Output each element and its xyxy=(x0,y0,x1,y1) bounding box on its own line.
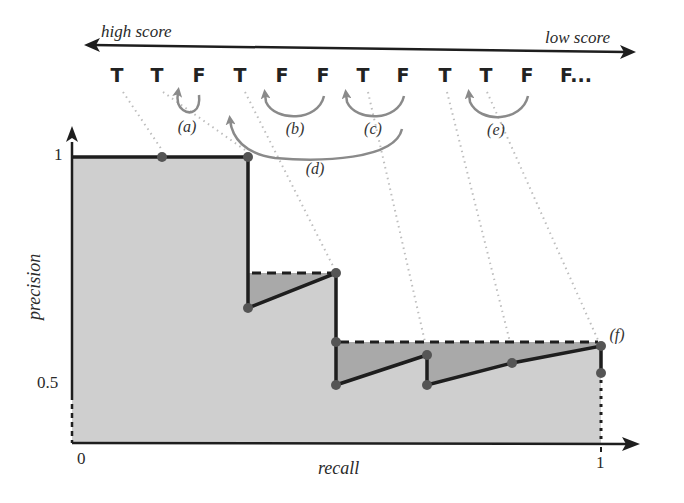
x-tick-1-label: 1 xyxy=(596,453,605,473)
sequence-item: F xyxy=(193,64,206,86)
arc-label-e: (e) xyxy=(487,121,505,139)
arc-label-a: (a) xyxy=(178,118,197,136)
high-score-label: high score xyxy=(101,22,172,42)
sequence-item: F xyxy=(276,64,289,86)
x-axis xyxy=(72,443,626,444)
arc-label-c: (c) xyxy=(364,120,382,138)
sequence-item: F... xyxy=(560,64,592,86)
sequence-item: T xyxy=(439,64,452,86)
arc-label-b: (b) xyxy=(286,120,305,138)
sequence-item: F xyxy=(521,64,534,86)
sequence-item: T xyxy=(111,64,124,86)
swap-arcs xyxy=(178,92,528,160)
y-tick-0-5: 0.5 xyxy=(37,373,58,393)
arc-c xyxy=(346,94,404,116)
sequence-item: F xyxy=(397,64,410,86)
arc-label-f: (f) xyxy=(609,326,624,344)
arc-label-d: (d) xyxy=(306,160,325,178)
sequence-item: T xyxy=(480,64,493,86)
low-score-label: low score xyxy=(545,28,610,48)
x-axis-title: recall xyxy=(318,458,359,479)
y-tick-1: 1 xyxy=(54,145,63,165)
arc-a xyxy=(178,92,200,112)
arc-e xyxy=(469,94,528,117)
y-axis-title: precision xyxy=(24,254,45,320)
sequence-item: T xyxy=(151,64,164,86)
y-axis-arrowhead-icon xyxy=(66,126,78,142)
sequence-item: T xyxy=(234,64,247,86)
sequence-item: F xyxy=(317,64,330,86)
sequence-item: T xyxy=(357,64,370,86)
precision-recall-figure: high score low score T T F T F F T F T T… xyxy=(0,0,684,503)
arc-b xyxy=(265,94,324,116)
x-tick-0-label: 0 xyxy=(77,449,86,469)
